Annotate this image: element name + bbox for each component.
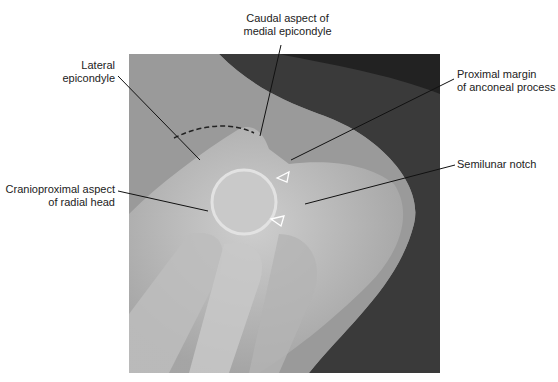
label-caudal-medial-epicondyle: Caudal aspect of medial epicondyle	[225, 12, 350, 38]
label-lateral-epicondyle: Lateral epicondyle	[40, 59, 115, 85]
label-radial-head: Cranioproximal aspect of radial head	[0, 183, 115, 209]
radiograph-image	[129, 54, 440, 373]
figure: Caudal aspect of medial epicondyle Later…	[0, 0, 558, 382]
label-anconeal-process: Proximal margin of anconeal process	[457, 68, 558, 94]
label-semilunar-notch: Semilunar notch	[457, 158, 557, 171]
